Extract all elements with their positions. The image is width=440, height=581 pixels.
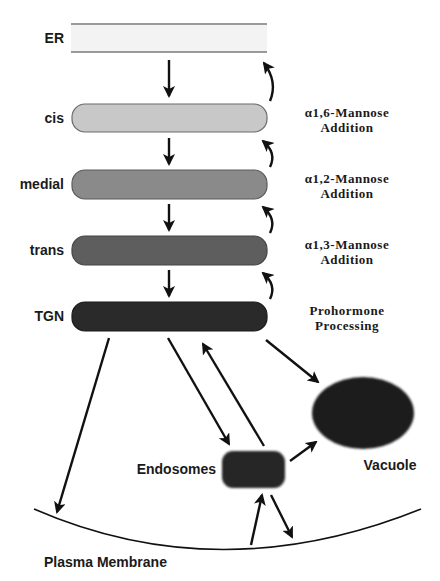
medial-label: medial: [20, 176, 64, 192]
golgi-trafficking-diagram: ER cis medial trans TGN α1,6-Mannose Add…: [0, 0, 440, 581]
plasma-membrane-label: Plasma Membrane: [44, 554, 167, 570]
cis-cisterna: [72, 104, 267, 132]
plasma-membrane: [34, 509, 421, 550]
cis-label: cis: [45, 110, 65, 126]
tgn-to-vacuole-arrow: [266, 340, 318, 382]
annotation-cis-line1: α1,6-Mannose: [305, 105, 389, 120]
annotation-medial-line2: Addition: [320, 186, 373, 201]
medial-to-cis-retrograde-arrow: [263, 141, 272, 167]
endosomes-to-plasma-membrane-arrow: [271, 495, 292, 537]
er-compartment: [71, 24, 267, 52]
trans-to-medial-retrograde-arrow: [263, 207, 272, 233]
endosomes-to-tgn-arrow: [203, 344, 264, 446]
vacuole-label: Vacuole: [364, 457, 417, 473]
annotation-trans-line1: α1,3-Mannose: [305, 237, 389, 252]
tgn-to-plasma-membrane-arrow: [57, 338, 109, 512]
annotation-medial-line1: α1,2-Mannose: [305, 171, 389, 186]
tgn-to-trans-retrograde-arrow: [263, 273, 272, 299]
er-label: ER: [45, 30, 64, 46]
tgn-to-endosomes-arrow: [168, 338, 229, 444]
annotation-cis-line2: Addition: [320, 120, 373, 135]
annotation-tgn-line1: Prohormone: [310, 303, 385, 318]
annotation-trans: α1,3-Mannose Addition: [305, 237, 389, 267]
annotation-tgn: Prohormone Processing: [310, 303, 385, 333]
tgn-label: TGN: [34, 308, 64, 324]
medial-cisterna: [72, 170, 267, 199]
annotation-trans-line2: Addition: [320, 252, 373, 267]
plasma-membrane-to-endosomes-arrow: [251, 495, 262, 545]
vacuole: [312, 377, 414, 449]
endosomes-to-vacuole-arrow: [290, 442, 316, 461]
endosomes: [222, 451, 285, 488]
trans-cisterna: [72, 236, 267, 265]
cis-to-er-retrograde-arrow: [264, 63, 273, 101]
annotation-tgn-line2: Processing: [315, 318, 379, 333]
er-band: [71, 25, 267, 52]
trans-label: trans: [30, 242, 64, 258]
annotation-cis: α1,6-Mannose Addition: [305, 105, 389, 135]
endosomes-label: Endosomes: [137, 461, 217, 477]
tgn-cisterna: [72, 302, 267, 331]
annotation-medial: α1,2-Mannose Addition: [305, 171, 389, 201]
